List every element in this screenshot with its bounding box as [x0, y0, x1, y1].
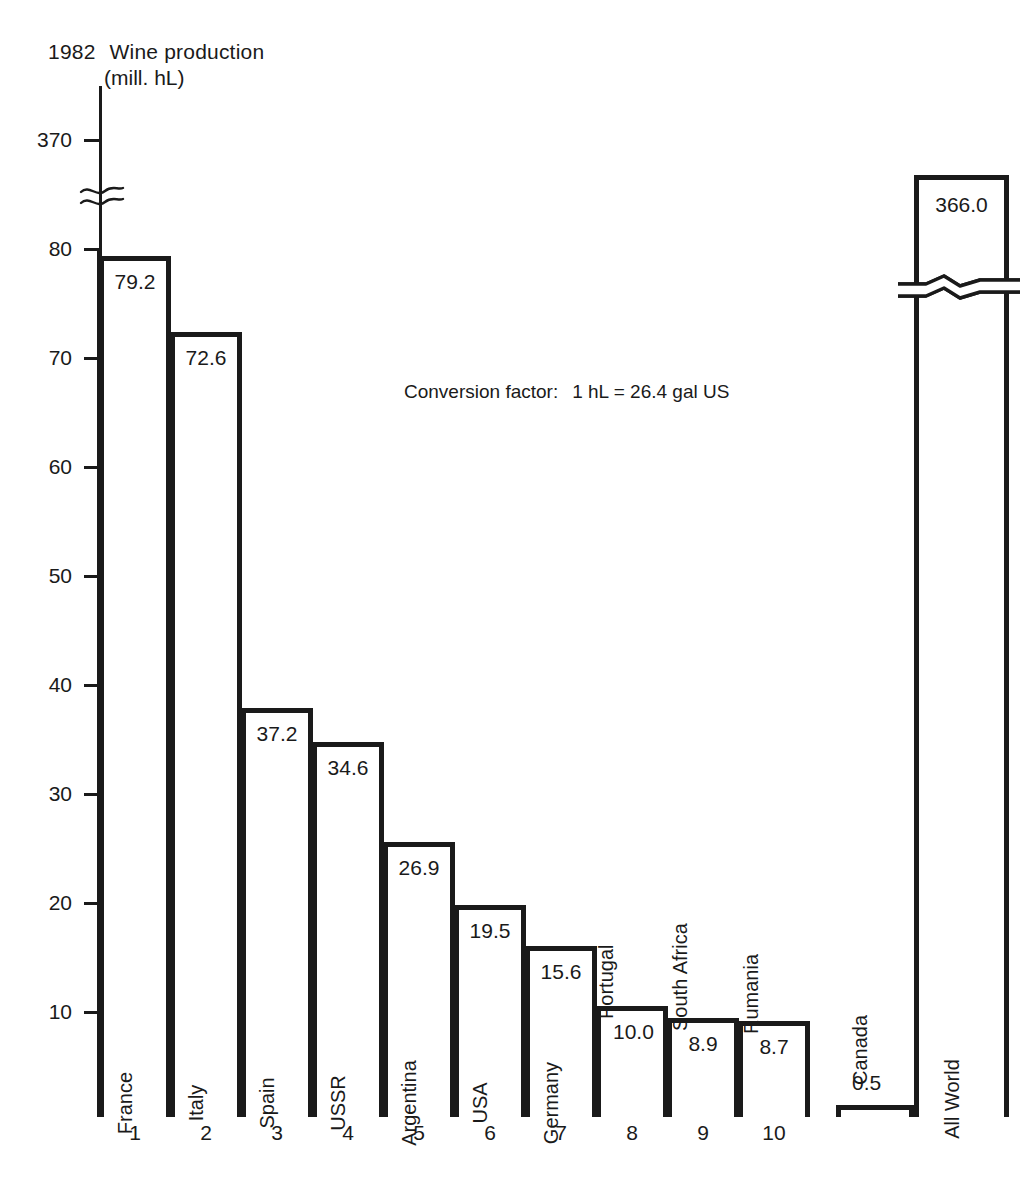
- y-tick-label-50: 50: [12, 565, 72, 586]
- chart-title-text: Wine production: [110, 40, 265, 63]
- x-tick-label-2: 2: [170, 1122, 242, 1143]
- conversion-factor-label: Conversion factor:: [404, 381, 558, 402]
- bar-rumania[interactable]: 8.7: [738, 1021, 810, 1117]
- x-tick-label-3: 3: [241, 1122, 313, 1143]
- bar-label-italy: Italy: [186, 1085, 206, 1122]
- bar-label-rumania: Rumania: [741, 954, 761, 1034]
- y-tick-label-20: 20: [12, 892, 72, 913]
- bar-value-spain: 37.2: [246, 723, 308, 744]
- conversion-factor-value: 1 hL = 26.4 gal US: [572, 381, 729, 402]
- bar-portugal[interactable]: 10.0: [596, 1006, 668, 1117]
- bar-value-argentina: 26.9: [388, 857, 450, 878]
- chart-canvas: 1982Wine production (mill. hL) Conversio…: [0, 0, 1032, 1186]
- x-tick-label-10: 10: [738, 1122, 810, 1143]
- x-tick-label-5: 5: [383, 1122, 455, 1143]
- bar-value-rumania: 8.7: [743, 1036, 805, 1057]
- x-tick-label-1: 1: [99, 1122, 171, 1143]
- bar-break-icon: [898, 272, 1020, 302]
- bar-south-africa[interactable]: 8.9: [667, 1018, 739, 1117]
- bar-label-south-africa: South Africa: [670, 923, 690, 1031]
- bar-value-france: 79.2: [104, 271, 166, 292]
- y-tick-label-30: 30: [12, 783, 72, 804]
- y-tick-label-60: 60: [12, 456, 72, 477]
- bar-value-ussr: 34.6: [317, 757, 379, 778]
- x-tick-label-7: 7: [525, 1122, 597, 1143]
- bar-label-all-world: All World: [942, 1059, 962, 1139]
- x-tick-label-9: 9: [667, 1122, 739, 1143]
- y-tick-label-370: 370: [12, 129, 72, 150]
- bar-spain[interactable]: 37.2 Spain: [241, 708, 313, 1117]
- bar-france[interactable]: 79.2 France: [99, 256, 171, 1117]
- bar-value-south-africa: 8.9: [672, 1033, 734, 1054]
- bar-argentina[interactable]: 26.9 Argentina: [383, 842, 455, 1117]
- y-tick-label-40: 40: [12, 674, 72, 695]
- bar-label-portugal: Portugal: [596, 945, 616, 1020]
- bar-all-world[interactable]: 366.0 All World: [914, 175, 1009, 1117]
- axis-break-icon: [78, 176, 126, 216]
- y-axis-upper-segment: [99, 86, 102, 252]
- x-tick-label-4: 4: [312, 1122, 384, 1143]
- bar-canada[interactable]: [836, 1105, 914, 1117]
- y-tick-label-70: 70: [12, 347, 72, 368]
- bar-usa[interactable]: 19.5 USA: [454, 905, 526, 1117]
- x-tick-label-6: 6: [454, 1122, 526, 1143]
- y-tick-label-10: 10: [12, 1001, 72, 1022]
- bar-label-canada: Canada: [850, 1015, 870, 1085]
- conversion-factor-note: Conversion factor:1 hL = 26.4 gal US: [404, 381, 729, 403]
- bar-value-germany: 15.6: [530, 961, 592, 982]
- bar-value-all-world: 366.0: [919, 194, 1004, 215]
- y-tick-label-80: 80: [12, 238, 72, 259]
- chart-title-year: 1982: [48, 40, 96, 63]
- chart-subtitle-units: (mill. hL): [104, 66, 185, 90]
- bar-italy[interactable]: 72.6 Italy: [170, 332, 242, 1117]
- bar-value-portugal: 10.0: [601, 1021, 663, 1042]
- x-tick-label-8: 8: [596, 1122, 668, 1143]
- chart-title: 1982Wine production: [48, 40, 264, 64]
- bar-value-italy: 72.6: [175, 347, 237, 368]
- bar-germany[interactable]: 15.6 Germany: [525, 946, 597, 1117]
- bar-label-usa: USA: [470, 1082, 490, 1123]
- bar-value-usa: 19.5: [459, 920, 521, 941]
- bar-ussr[interactable]: 34.6 USSR: [312, 742, 384, 1117]
